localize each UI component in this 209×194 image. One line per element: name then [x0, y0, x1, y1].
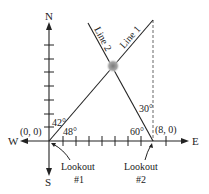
east-label: E: [192, 135, 199, 147]
fire-icon: [106, 59, 120, 73]
angle-30-label: 30°: [139, 103, 153, 114]
south-arrow-icon: [46, 168, 52, 176]
bearing-diagram: Line 2 Line 1 N S W E 42° 48° 60° 30° (0…: [0, 0, 209, 194]
lookout-1-number: #1: [74, 174, 84, 185]
east-arrow-icon: [181, 138, 189, 144]
angle-48-label: 48°: [63, 126, 77, 137]
point-8-0-coordinate-label: (8, 0): [155, 124, 177, 136]
lookout-1-label: Lookout: [61, 161, 95, 172]
north-label: N: [45, 10, 53, 22]
lookout-2-label: Lookout: [124, 161, 158, 172]
west-label: W: [8, 135, 19, 147]
north-arrow-icon: [46, 22, 52, 30]
lookout-1-pointer: [53, 144, 70, 160]
north-south-axis: [44, 22, 54, 176]
line-2-label: Line 2: [92, 25, 114, 53]
lookout-2-number: #2: [136, 174, 146, 185]
origin-coordinate-label: (0, 0): [20, 126, 42, 138]
angle-60-label: 60°: [130, 126, 144, 137]
west-arrow-icon: [20, 138, 28, 144]
south-label: S: [45, 176, 51, 188]
west-east-axis: [20, 136, 189, 146]
